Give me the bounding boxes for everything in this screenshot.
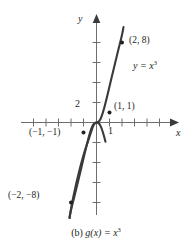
- y-tick-label-2: 2: [75, 99, 80, 109]
- figure-cubic-function: y x 2 1 (2, 8) (1, 1) (−1, −1) (−2, −8) …: [0, 0, 192, 247]
- caption-exponent: 3: [118, 226, 121, 233]
- curve-equation-label: y = x3: [133, 60, 157, 71]
- curve-equation-text: y = x: [133, 60, 154, 71]
- y-axis-arrow: [93, 14, 101, 23]
- figure-caption: (b) g(x) = x3: [0, 226, 192, 238]
- x-axis-arrow: [170, 119, 179, 127]
- cubic-plot: [0, 0, 192, 247]
- curve-equation-exponent: 3: [154, 59, 157, 66]
- x-tick-label-1: 1: [108, 126, 113, 136]
- point-label-1-1: (1, 1): [114, 102, 135, 112]
- point-marker-2-8: [120, 41, 124, 45]
- point-label-neg1-neg1: (−1, −1): [29, 128, 60, 138]
- y-axis-label: y: [78, 14, 82, 24]
- caption-letter: (b): [71, 227, 83, 238]
- point-marker-neg1-neg1: [82, 131, 86, 135]
- point-label-neg2-neg8: (−2, −8): [8, 191, 39, 201]
- point-marker-1-1: [108, 111, 112, 115]
- point-label-2-8: (2, 8): [129, 36, 150, 46]
- y-axis: [93, 14, 101, 215]
- caption-function: g(x) = x: [85, 227, 117, 238]
- point-marker-neg2-neg8: [69, 201, 73, 205]
- x-axis-label: x: [176, 128, 180, 138]
